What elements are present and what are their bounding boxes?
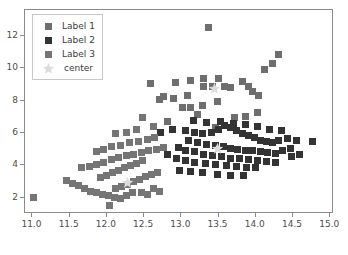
data-point: [117, 142, 124, 149]
data-point: [138, 149, 145, 156]
data-point: [220, 143, 227, 150]
y-axis-tick: [20, 132, 24, 133]
data-point: [205, 24, 212, 31]
data-point: [217, 118, 224, 125]
data-point: [170, 95, 177, 102]
legend-item[interactable]: Label 3: [38, 47, 95, 61]
data-point: [86, 163, 93, 170]
chart-legend: Label 1Label 2Label 3center: [32, 14, 103, 80]
data-point: [100, 159, 107, 166]
data-point: [150, 123, 157, 130]
data-point: [234, 146, 241, 153]
legend-square-icon: [38, 51, 58, 58]
y-axis-tick-label: 6: [12, 127, 18, 137]
data-point: [191, 159, 198, 166]
data-point: [240, 172, 247, 179]
data-point: [153, 146, 160, 153]
x-axis-tick-label: 14.5: [282, 219, 302, 229]
data-point: [133, 126, 140, 133]
data-point: [123, 129, 130, 136]
data-point: [242, 121, 249, 128]
data-point: [214, 98, 221, 105]
data-point: [157, 129, 164, 136]
x-axis-tick-label: 11.0: [21, 219, 41, 229]
legend-item-label: center: [58, 63, 93, 73]
data-point: [254, 123, 261, 130]
data-point: [126, 139, 133, 146]
data-point: [227, 172, 234, 179]
data-point: [233, 163, 240, 170]
data-point: [255, 92, 262, 99]
data-point: [30, 194, 37, 201]
data-point: [169, 126, 176, 133]
data-point: [93, 148, 100, 155]
data-point: [154, 169, 161, 176]
x-axis-tick: [31, 213, 32, 217]
data-point: [191, 129, 198, 136]
data-point: [203, 141, 210, 148]
data-point: [187, 168, 194, 175]
data-point: [184, 92, 191, 99]
data-point: [100, 146, 107, 153]
data-point: [172, 79, 179, 86]
data-point: [230, 120, 237, 127]
data-point: [176, 167, 183, 174]
data-point: [223, 162, 230, 169]
data-point: [200, 83, 207, 90]
y-axis-tick-label: 10: [7, 62, 18, 72]
data-point: [145, 147, 152, 154]
data-point: [156, 96, 163, 103]
data-point: [252, 164, 259, 171]
data-point: [227, 84, 234, 91]
data-point: [209, 152, 216, 159]
data-point: [164, 118, 171, 125]
data-point: [266, 126, 273, 133]
data-point: [279, 147, 286, 154]
data-point: [243, 164, 250, 171]
data-point: [139, 157, 146, 164]
y-axis-tick-label: 4: [12, 159, 18, 169]
data-point: [272, 150, 279, 157]
y-axis-tick-label: 12: [7, 30, 18, 40]
data-point: [287, 145, 294, 152]
x-axis-tick: [218, 213, 219, 217]
data-point: [144, 136, 151, 143]
data-point: [254, 109, 261, 116]
data-point: [93, 161, 100, 168]
data-point: [191, 148, 198, 155]
data-point: [212, 142, 219, 149]
x-axis-tick-label: 12.0: [96, 219, 116, 229]
data-point: [135, 138, 142, 145]
data-point: [130, 151, 137, 158]
data-point: [275, 51, 282, 58]
y-axis-tick: [20, 197, 24, 198]
data-point: [242, 147, 249, 154]
data-point: [106, 202, 113, 209]
legend-square-icon: [38, 23, 58, 30]
x-axis-tick-label: 13.0: [170, 219, 190, 229]
x-axis-tick-label: 13.5: [208, 219, 228, 229]
data-point: [129, 189, 136, 196]
data-point: [261, 66, 268, 73]
data-point: [242, 113, 249, 120]
data-point: [263, 158, 270, 165]
legend-item[interactable]: center: [38, 61, 95, 75]
data-point: [108, 156, 115, 163]
legend-item-label: Label 3: [58, 49, 95, 59]
x-axis-tick-label: 12.5: [133, 219, 153, 229]
data-point: [284, 135, 291, 142]
legend-star-icon: [38, 62, 58, 75]
data-point: [293, 137, 300, 144]
x-axis-tick: [180, 213, 181, 217]
data-point: [147, 80, 154, 87]
legend-item-label: Label 2: [58, 35, 95, 45]
x-axis-tick: [69, 213, 70, 217]
legend-item[interactable]: Label 1: [38, 19, 95, 33]
data-point: [182, 127, 189, 134]
legend-item[interactable]: Label 2: [38, 33, 95, 47]
data-point: [175, 144, 182, 151]
data-point: [78, 164, 85, 171]
x-axis-tick-label: 14.0: [245, 219, 265, 229]
data-point: [200, 75, 207, 82]
data-point: [296, 151, 303, 158]
